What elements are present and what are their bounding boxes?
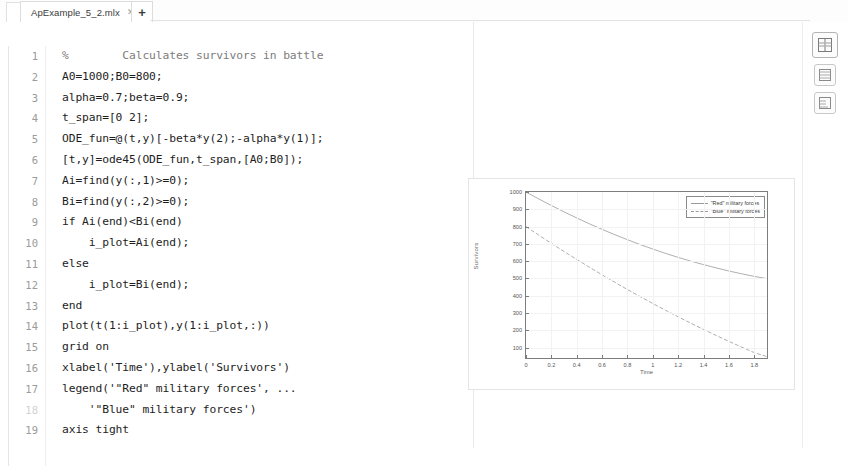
x-tick-mark xyxy=(754,355,755,358)
code-line[interactable]: 11else xyxy=(0,254,474,275)
grid-line-horizontal xyxy=(526,330,767,331)
x-tick-label: 0.2 xyxy=(547,362,555,368)
line-number: 8 xyxy=(0,192,44,213)
y-tick-mark xyxy=(526,278,529,279)
tab-apexample[interactable]: ApExample_5_2.mlx ✕ xyxy=(20,1,142,23)
grid-line-vertical xyxy=(704,192,705,358)
panel-right-icon xyxy=(819,69,831,81)
code-editor-pane[interactable]: 1% Calculates survivors in battle2A0=100… xyxy=(0,22,474,448)
code-line-list: 1% Calculates survivors in battle2A0=100… xyxy=(0,46,474,441)
x-tick-label: 1 xyxy=(651,362,654,368)
legend-label-red: "Red" military forces xyxy=(711,200,759,206)
y-tick-label: 100 xyxy=(513,345,522,351)
legend-item-red: "Red" military forces xyxy=(691,200,760,206)
code-text: end xyxy=(62,296,82,317)
x-tick-label: 1.4 xyxy=(700,362,708,368)
grid-line-horizontal xyxy=(526,209,767,210)
chart-legend[interactable]: "Red" military forces "Blue" military fo… xyxy=(686,196,765,218)
line-number: 13 xyxy=(0,296,44,317)
code-line[interactable]: 16xlabel('Time'),ylabel('Survivors') xyxy=(0,358,474,379)
code-text: i_plot=Ai(end); xyxy=(62,233,189,254)
x-tick-mark xyxy=(704,355,705,358)
code-line[interactable]: 15grid on xyxy=(0,337,474,358)
legend-swatch-blue xyxy=(691,211,708,212)
y-tick-label: 700 xyxy=(513,241,522,247)
x-tick-mark xyxy=(577,355,578,358)
line-number: 3 xyxy=(0,88,44,109)
x-tick-label: 1.8 xyxy=(750,362,758,368)
panel-bottom-icon xyxy=(819,97,831,109)
output-right-icon[interactable] xyxy=(814,64,836,86)
code-line[interactable]: 18 '"Blue" military forces') xyxy=(0,400,474,421)
y-tick-label: 300 xyxy=(513,310,522,316)
y-axis-label: Survivors xyxy=(473,243,479,270)
panel-grid-icon xyxy=(818,38,832,52)
tabbar-divider xyxy=(150,20,810,21)
code-line[interactable]: 7Ai=find(y(:,1)>=0); xyxy=(0,171,474,192)
line-number: 1 xyxy=(0,46,44,67)
grid-line-horizontal xyxy=(526,348,767,349)
code-text: if Ai(end)<Bi(end) xyxy=(62,212,183,233)
x-axis-label: Time xyxy=(640,369,653,375)
grid-line-vertical xyxy=(653,192,654,358)
code-line[interactable]: 8Bi=find(y(:,2)>=0); xyxy=(0,192,474,213)
right-rail xyxy=(802,22,848,448)
plot-axes: "Red" military forces "Blue" military fo… xyxy=(525,191,768,359)
y-tick-mark xyxy=(526,313,529,314)
y-tick-mark xyxy=(526,227,529,228)
code-line[interactable]: 5ODE_fun=@(t,y)[-beta*y(2);-alpha*y(1)]; xyxy=(0,129,474,150)
output-bottom-icon[interactable] xyxy=(814,92,836,114)
line-number: 4 xyxy=(0,108,44,129)
grid-line-vertical xyxy=(627,192,628,358)
code-text: xlabel('Time'),ylabel('Survivors') xyxy=(62,358,290,379)
line-number: 16 xyxy=(0,358,44,379)
code-line[interactable]: 3alpha=0.7;beta=0.9; xyxy=(0,88,474,109)
code-line[interactable]: 4t_span=[0 2]; xyxy=(0,108,474,129)
code-text: A0=1000;B0=800; xyxy=(62,67,163,88)
code-text: '"Blue" military forces') xyxy=(62,400,256,421)
line-number: 19 xyxy=(0,420,44,441)
grid-line-vertical xyxy=(577,192,578,358)
y-tick-label: 600 xyxy=(513,258,522,264)
code-line[interactable]: 17legend('"Red" military forces', ... xyxy=(0,379,474,400)
y-tick-label: 200 xyxy=(513,327,522,333)
code-text: [t,y]=ode45(ODE_fun,t_span,[A0;B0]); xyxy=(62,150,303,171)
y-tick-label: 1000 xyxy=(510,189,522,195)
y-tick-mark xyxy=(526,348,529,349)
code-line[interactable]: 14plot(t(1:i_plot),y(1:i_plot,:)) xyxy=(0,316,474,337)
code-line[interactable]: 9if Ai(end)<Bi(end) xyxy=(0,212,474,233)
grid-line-horizontal xyxy=(526,313,767,314)
code-line[interactable]: 6[t,y]=ode45(ODE_fun,t_span,[A0;B0]); xyxy=(0,150,474,171)
code-line[interactable]: 2A0=1000;B0=800; xyxy=(0,67,474,88)
code-line[interactable]: 12 i_plot=Bi(end); xyxy=(0,275,474,296)
line-number: 6 xyxy=(0,150,44,171)
grid-line-horizontal xyxy=(526,227,767,228)
line-number: 12 xyxy=(0,275,44,296)
code-line[interactable]: 10 i_plot=Ai(end); xyxy=(0,233,474,254)
line-number: 14 xyxy=(0,316,44,337)
x-tick-mark xyxy=(678,355,679,358)
line-number: 2 xyxy=(0,67,44,88)
line-number: 15 xyxy=(0,337,44,358)
x-tick-label: 1.6 xyxy=(725,362,733,368)
code-text: plot(t(1:i_plot),y(1:i_plot,:)) xyxy=(62,316,270,337)
y-tick-label: 400 xyxy=(513,293,522,299)
y-tick-mark xyxy=(526,296,529,297)
grid-line-vertical xyxy=(729,192,730,358)
line-number: 9 xyxy=(0,212,44,233)
y-tick-mark xyxy=(526,261,529,262)
line-number: 11 xyxy=(0,254,44,275)
x-tick-mark xyxy=(729,355,730,358)
new-tab-label: + xyxy=(138,6,146,19)
x-tick-mark xyxy=(551,355,552,358)
line-number: 10 xyxy=(0,233,44,254)
output-inline-icon[interactable] xyxy=(812,32,838,58)
y-tick-label: 800 xyxy=(513,224,522,230)
grid-line-vertical xyxy=(754,192,755,358)
line-number: 18 xyxy=(0,400,44,421)
code-line[interactable]: 19axis tight xyxy=(0,420,474,441)
code-line[interactable]: 1% Calculates survivors in battle xyxy=(0,46,474,67)
code-line[interactable]: 13end xyxy=(0,296,474,317)
figure-panel[interactable]: Survivors "Red" military forces "Blue" m… xyxy=(468,178,795,390)
code-text: i_plot=Bi(end); xyxy=(62,275,189,296)
